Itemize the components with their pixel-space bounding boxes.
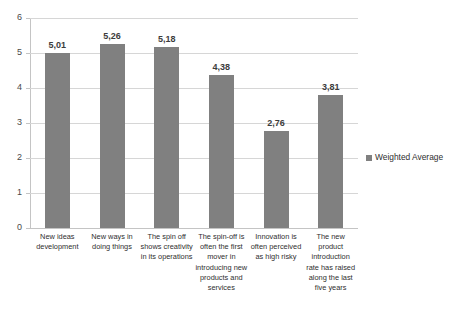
bar-value-label: 5,01 — [30, 40, 85, 50]
x-axis-category-label: The spin-off is often the first mover in… — [195, 232, 248, 293]
legend-swatch-icon — [366, 155, 372, 161]
x-axis-category-label: New ideas development — [31, 232, 84, 252]
y-axis-tick-label: 2 — [4, 153, 22, 162]
bar[interactable] — [264, 131, 289, 228]
x-axis-category-label: Innovation is often perceived as high ri… — [250, 232, 303, 263]
y-axis-tick — [26, 228, 30, 229]
bar-value-label: 2,76 — [249, 118, 304, 128]
x-axis-category-label: New ways in doing things — [86, 232, 139, 252]
gridline — [30, 158, 358, 159]
y-axis-tick-label: 4 — [4, 83, 22, 92]
y-axis-tick-label: 6 — [4, 13, 22, 22]
bar[interactable] — [45, 53, 70, 228]
bar-value-label: 5,18 — [139, 34, 194, 44]
bar-value-label: 3,81 — [303, 82, 358, 92]
y-axis-tick — [26, 193, 30, 194]
bar-value-label: 5,26 — [85, 31, 140, 41]
bar[interactable] — [154, 47, 179, 228]
bar[interactable] — [100, 44, 125, 228]
gridline — [30, 18, 358, 19]
bar[interactable] — [209, 75, 234, 228]
y-axis-tick — [26, 53, 30, 54]
bar-chart: 6543210 5,015,265,184,382,763,81 New ide… — [0, 0, 461, 332]
y-axis-tick — [26, 88, 30, 89]
gridline — [30, 193, 358, 194]
bar[interactable] — [318, 95, 343, 228]
gridline — [30, 53, 358, 54]
y-axis-tick — [26, 18, 30, 19]
y-axis-tick-label: 3 — [4, 118, 22, 127]
y-axis-tick-label: 5 — [4, 48, 22, 57]
y-axis-tick — [26, 158, 30, 159]
legend[interactable]: Weighted Average — [366, 153, 443, 162]
gridline — [30, 228, 358, 229]
y-axis-tick — [26, 123, 30, 124]
bar-value-label: 4,38 — [194, 62, 249, 72]
x-axis-category-label: The spin off shows creativity in its ope… — [140, 232, 193, 263]
legend-label: Weighted Average — [375, 153, 443, 162]
x-axis-category-label: The new product introduction rate has ra… — [304, 232, 357, 293]
gridline — [30, 123, 358, 124]
y-axis-tick-label: 1 — [4, 188, 22, 197]
y-axis-tick-label: 0 — [4, 223, 22, 232]
